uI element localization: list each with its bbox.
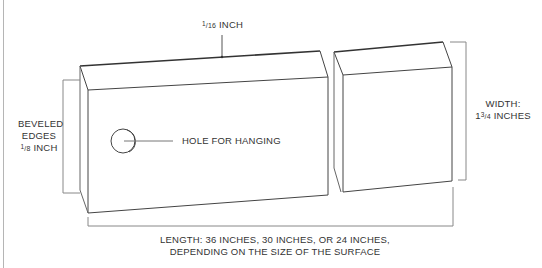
beveled-edges-label: BEVELED EDGES 1/8 INCH (18, 118, 60, 155)
small-board (334, 42, 452, 192)
width-value: 13/4 INCHES (472, 110, 534, 123)
length-line2: DEPENDING ON THE SIZE OF THE SURFACE (150, 246, 400, 258)
thickness-unit: INCH (219, 19, 243, 30)
hanging-hole (111, 129, 173, 153)
width-line1: WIDTH: (472, 98, 534, 110)
large-board (80, 51, 328, 213)
bevel-board-diagram (0, 0, 542, 268)
thickness-fraction-denominator: 16 (208, 22, 216, 29)
thickness-label: 1/16 INCH (202, 19, 243, 32)
thickness-callout-dot (221, 56, 223, 58)
length-label: LENGTH: 36 INCHES, 30 INCHES, OR 24 INCH… (150, 234, 400, 258)
hole-label: HOLE FOR HANGING (182, 135, 281, 147)
beveled-line2: EDGES (18, 130, 60, 142)
width-label: WIDTH: 13/4 INCHES (472, 98, 534, 123)
length-bracket (88, 187, 453, 226)
thickness-fraction-numerator: 1 (202, 20, 206, 27)
beveled-line1: BEVELED (18, 118, 60, 130)
beveled-edges-bracket (63, 80, 80, 193)
length-line1: LENGTH: 36 INCHES, 30 INCHES, OR 24 INCH… (150, 234, 400, 246)
beveled-fraction: 1/8 INCH (18, 142, 60, 155)
